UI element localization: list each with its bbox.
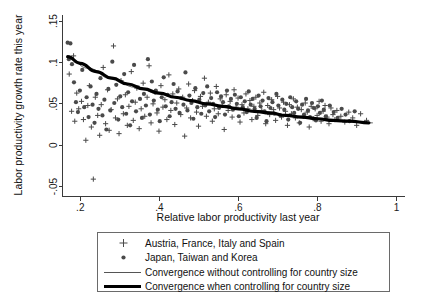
axis-frame (63, 15, 405, 197)
data-point-dot (144, 103, 148, 107)
data-point-plus (81, 117, 86, 122)
data-point-dot (146, 57, 150, 61)
data-point-dot (187, 93, 191, 97)
legend-entry-japan: Japan, Taiwan and Korea (121, 252, 258, 263)
data-point-dot (316, 104, 320, 108)
data-point-plus (224, 92, 229, 97)
data-point-plus (273, 118, 278, 123)
data-point-plus (158, 83, 163, 88)
data-point-dot (173, 107, 177, 111)
data-point-plus (129, 69, 134, 74)
data-point-dot (290, 105, 294, 109)
data-point-plus (156, 129, 161, 134)
data-point-dot (148, 113, 152, 117)
data-point-dot (296, 107, 300, 111)
data-point-dot (288, 95, 292, 99)
data-point-dot (152, 98, 156, 102)
data-point-dot (294, 99, 298, 103)
data-point-dot (175, 89, 179, 93)
legend-entry-convergence-controlled: Convergence when controlling for country… (104, 281, 351, 292)
data-point-plus (210, 119, 215, 124)
data-point-dot (223, 113, 227, 117)
data-point-dot (247, 89, 251, 93)
data-point-plus (67, 71, 72, 76)
data-point-dot (353, 109, 357, 113)
data-point-dot (195, 105, 199, 109)
data-point-plus (139, 106, 144, 111)
data-point-dot (134, 109, 138, 113)
data-point-dot (160, 95, 164, 99)
data-point-dot (213, 115, 217, 119)
data-point-dot (172, 82, 176, 86)
data-point-dot (181, 103, 185, 107)
data-point-dot (132, 63, 136, 67)
data-point-dot (88, 84, 92, 88)
data-point-dot (98, 76, 102, 80)
data-point-plus (95, 113, 100, 118)
data-point-dot (255, 116, 259, 120)
data-point-dot (292, 111, 296, 115)
data-point-plus (208, 90, 213, 95)
data-point-dot (120, 105, 124, 109)
data-point-dot (142, 92, 146, 96)
data-point-plus (111, 43, 116, 48)
data-point-dot (239, 95, 243, 99)
data-point-dot (320, 98, 324, 102)
data-point-plus (166, 72, 171, 77)
y-tick-label: -.05 (48, 178, 59, 196)
data-point-dot (68, 41, 72, 45)
legend-label-japan: Japan, Taiwan and Korea (145, 252, 258, 263)
dot-marker-icon (121, 255, 125, 259)
plus-marker-icon (120, 239, 128, 247)
data-point-plus (285, 123, 290, 128)
data-point-dot (219, 94, 223, 98)
data-point-dot (280, 98, 284, 102)
data-point-dot (114, 83, 118, 87)
data-point-dot (116, 117, 120, 121)
data-point-dot (96, 107, 100, 111)
data-point-dot (170, 100, 174, 104)
data-point-dot (221, 100, 225, 104)
legend-entry-austria: Austria, France, Italy and Spain (120, 238, 285, 249)
data-point-dot (270, 100, 274, 104)
data-point-dot (332, 110, 336, 114)
data-point-dot (298, 121, 302, 125)
y-tick-label: .05 (48, 96, 59, 110)
x-tick-label: 1 (394, 202, 400, 213)
data-point-dot (257, 93, 261, 97)
data-point-dot (158, 119, 162, 123)
data-point-dot (343, 113, 347, 117)
data-point-plus (322, 103, 327, 108)
y-tick-label: .1 (48, 58, 59, 67)
x-axis-title: Relative labor productivity last year (157, 211, 320, 223)
data-point-dot (70, 62, 74, 66)
scatter-plot-figure: -.050.05.1.15 .2.4.6.81 Relative labor p… (0, 0, 425, 303)
data-point-dot (310, 101, 314, 105)
data-point-dot (102, 98, 106, 102)
data-point-dot (318, 111, 322, 115)
data-point-dot (207, 109, 211, 113)
data-point-plus (222, 127, 227, 132)
data-point-dot (104, 127, 108, 131)
data-point-dot (260, 98, 264, 102)
data-point-plus (204, 114, 209, 119)
data-point-dot (225, 89, 229, 93)
data-point-dot (108, 108, 112, 112)
data-point-dot (130, 99, 134, 103)
convergence-curve-uncontrolled (68, 58, 373, 123)
data-point-plus (103, 121, 108, 126)
legend-label-austria: Austria, France, Italy and Spain (145, 238, 285, 249)
regression-lines-layer (68, 57, 373, 123)
data-point-dot (266, 96, 270, 100)
data-point-plus (83, 138, 88, 143)
data-point-dot (328, 103, 332, 107)
data-point-dot (118, 94, 122, 98)
x-tick-label: .2 (76, 202, 85, 213)
series-pluses (67, 43, 370, 181)
data-point-dot (235, 102, 239, 106)
data-point-dot (126, 90, 130, 94)
data-point-dot (140, 116, 144, 120)
y-tick-label: .15 (48, 14, 59, 28)
data-point-dot (304, 97, 308, 101)
data-point-plus (182, 134, 187, 139)
